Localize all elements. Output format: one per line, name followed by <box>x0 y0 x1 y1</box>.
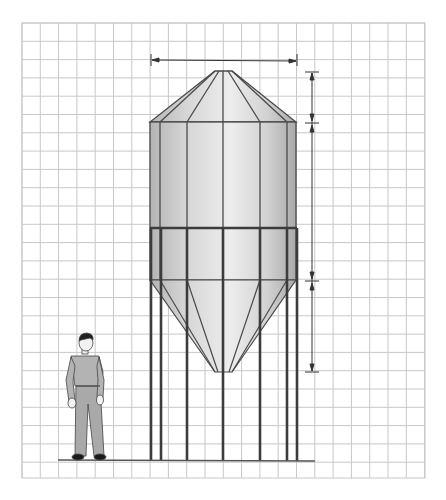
silo-diagram <box>0 0 446 500</box>
